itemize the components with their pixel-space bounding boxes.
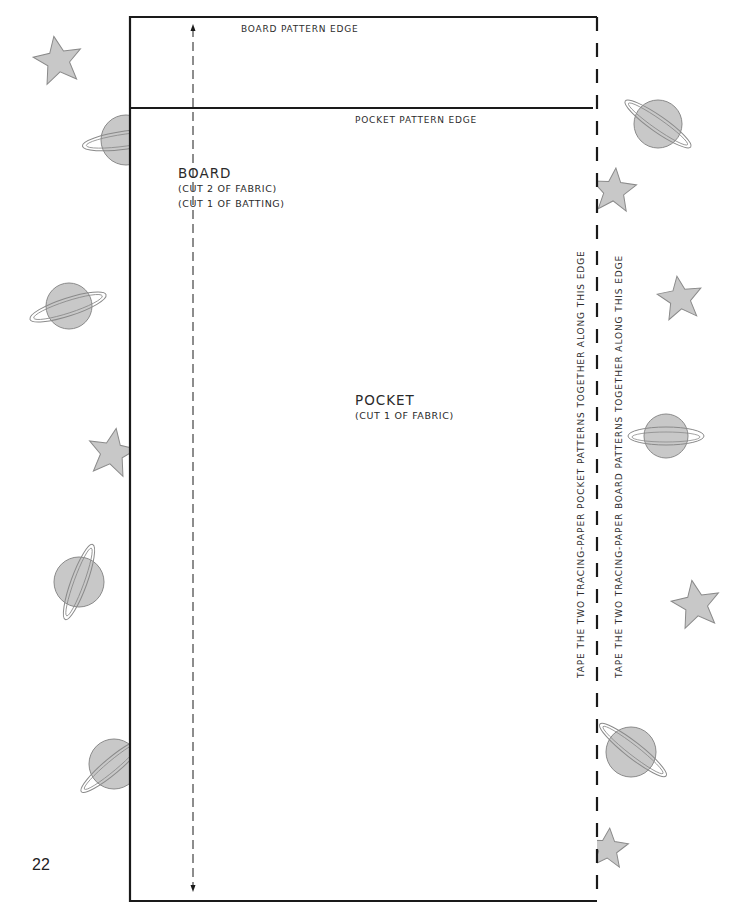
star-icon: [668, 576, 723, 630]
tape-board-instruction: TAPE THE TWO TRACING-PAPER BOARD PATTERN…: [614, 255, 624, 678]
pocket-title: POCKET: [355, 392, 454, 408]
board-pattern-edge-label: BOARD PATTERN EDGE: [241, 24, 359, 34]
planet-icon: [54, 542, 104, 623]
board-instruction: (CUT 2 OF FABRIC): [178, 181, 285, 196]
planet-icon: [595, 718, 671, 782]
board-piece-label: BOARD (CUT 2 OF FABRIC) (CUT 1 OF BATTIN…: [178, 165, 285, 211]
pocket-piece-label: POCKET (CUT 1 OF FABRIC): [355, 392, 454, 423]
pattern-linework: [0, 0, 749, 923]
tape-pocket-instruction: TAPE THE TWO TRACING-PAPER POCKET PATTER…: [576, 250, 586, 678]
page-number: 22: [32, 856, 50, 874]
star-icon: [30, 32, 85, 86]
planet-icon: [628, 414, 704, 458]
pocket-pattern-edge-label: POCKET PATTERN EDGE: [355, 115, 477, 125]
pocket-instruction: (CUT 1 OF FABRIC): [355, 408, 454, 423]
board-title: BOARD: [178, 165, 285, 181]
star-icon: [655, 273, 704, 321]
planet-icon: [27, 283, 109, 329]
planet-icon: [621, 95, 696, 154]
board-instruction: (CUT 1 OF BATTING): [178, 196, 285, 211]
